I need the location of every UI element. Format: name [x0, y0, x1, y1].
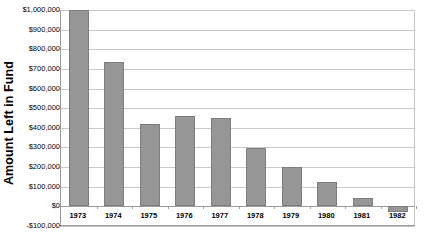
bar — [140, 124, 160, 206]
x-axis-tick-mark — [132, 206, 133, 209]
y-axis-tick-label: $800,000 — [14, 45, 60, 53]
gridline — [61, 226, 415, 227]
bar — [104, 62, 124, 206]
y-axis-tick-mark — [58, 226, 61, 227]
y-axis-tick-mark — [58, 49, 61, 50]
y-axis-tick-label: -$100,000 — [14, 222, 60, 230]
x-axis-tick-label: 1978 — [247, 211, 264, 220]
x-axis-tick-mark — [381, 206, 382, 209]
x-axis-tick-label: 1977 — [211, 211, 228, 220]
x-axis-tick-mark — [345, 206, 346, 209]
x-axis-tick-label: 1982 — [389, 211, 406, 220]
gridline — [61, 10, 415, 11]
y-axis-tick-label: $200,000 — [14, 163, 60, 171]
y-axis-tick-label: $0 — [14, 202, 60, 210]
plot-frame-right — [414, 10, 415, 225]
y-axis-tick-mark — [58, 187, 61, 188]
gridline — [61, 49, 415, 50]
gridline — [61, 30, 415, 31]
x-axis-tick-mark — [203, 206, 204, 209]
x-axis-tick-mark — [168, 206, 169, 209]
bar — [211, 118, 231, 206]
y-axis-tick-labels: $1,000,000$900,000$800,000$700,000$600,0… — [14, 0, 60, 245]
x-axis-tick-label: 1980 — [318, 211, 335, 220]
bar — [317, 182, 337, 206]
plot-area — [60, 10, 415, 226]
x-axis-tick-label: 1979 — [282, 211, 299, 220]
bar-chart: Amount Left in Fund $1,000,000$900,000$8… — [0, 0, 426, 245]
y-axis-tick-mark — [58, 128, 61, 129]
y-axis-tick-mark — [58, 10, 61, 11]
x-axis-tick-label: 1976 — [176, 211, 193, 220]
y-axis-tick-label: $400,000 — [14, 124, 60, 132]
y-axis-tick-mark — [58, 206, 61, 207]
y-axis-tick-label: $700,000 — [14, 65, 60, 73]
y-axis-tick-label: $900,000 — [14, 26, 60, 34]
x-axis-tick-mark — [239, 206, 240, 209]
y-axis-tick-mark — [58, 89, 61, 90]
y-axis-tick-mark — [58, 147, 61, 148]
bar — [246, 148, 266, 207]
x-axis-tick-label: 1974 — [105, 211, 122, 220]
x-axis-tick-label: 1973 — [69, 211, 86, 220]
x-axis-tick-mark — [416, 206, 417, 209]
x-axis-tick-label: 1981 — [353, 211, 370, 220]
bar — [175, 116, 195, 206]
x-axis-tick-mark — [274, 206, 275, 209]
x-axis-tick-mark — [310, 206, 311, 209]
y-axis-tick-mark — [58, 69, 61, 70]
bar — [282, 167, 302, 206]
bar — [353, 198, 373, 207]
x-axis-tick-mark — [97, 206, 98, 209]
y-axis-tick-label: $600,000 — [14, 85, 60, 93]
y-axis-tick-label: $500,000 — [14, 104, 60, 112]
y-axis-tick-mark — [58, 30, 61, 31]
y-axis-tick-mark — [58, 108, 61, 109]
y-axis-tick-label: $100,000 — [14, 183, 60, 191]
y-axis-tick-label: $1,000,000 — [14, 6, 60, 14]
y-axis-tick-mark — [58, 167, 61, 168]
y-axis-tick-label: $300,000 — [14, 143, 60, 151]
x-axis-tick-label: 1975 — [140, 211, 157, 220]
bar — [69, 10, 89, 206]
